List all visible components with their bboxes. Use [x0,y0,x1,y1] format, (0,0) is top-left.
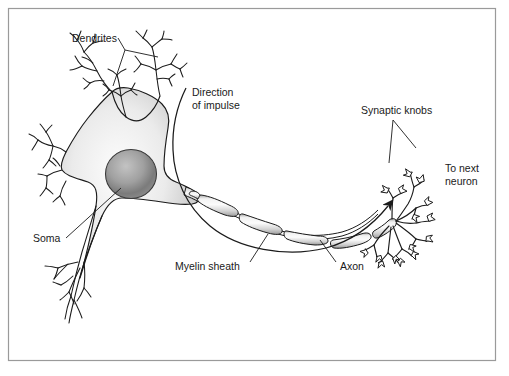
label-to-next-neuron-line-2: neuron [445,175,478,187]
label-axon: Axon [340,260,364,272]
label-dendrites: Dendrites [72,32,117,44]
neuron-diagram-figure: Dendrites Direction of impulse Synaptic … [0,0,509,376]
label-to-next-neuron-line-1: To next [445,162,479,174]
figure-border [9,9,496,361]
label-synaptic-knobs: Synaptic knobs [361,104,432,116]
label-to-next-neuron: To next neuron [445,162,482,187]
label-direction-line-1: Direction [192,86,234,98]
label-direction-of-impulse: Direction of impulse [192,86,240,111]
label-myelin-sheath: Myelin sheath [175,260,240,272]
nucleus [106,150,157,199]
label-soma: Soma [33,232,61,244]
label-direction-line-2: of impulse [192,99,240,111]
neuron-diagram-canvas: Dendrites Direction of impulse Synaptic … [0,0,509,376]
